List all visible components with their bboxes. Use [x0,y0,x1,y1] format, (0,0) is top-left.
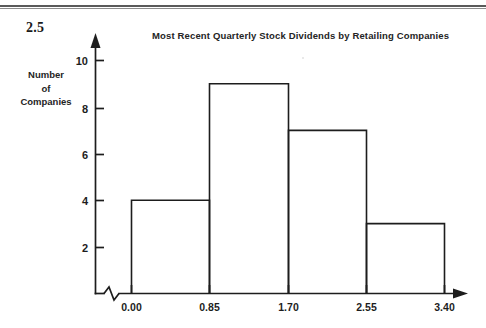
histogram-bar [367,224,445,294]
histogram-plot: 10 8 6 4 2 0.00 0.85 1.70 2.55 3.40 [0,0,486,328]
histogram-bar [289,130,367,293]
y-tick-label-10: 10 [76,55,88,67]
scanned-page: 2.5 Most Recent Quarterly Stock Dividend… [0,0,486,328]
y-tick-label-4: 4 [82,195,89,207]
x-tick-label-0: 0.00 [121,301,142,313]
x-axis-arrowhead [453,289,468,299]
y-axis-arrowhead [91,33,101,48]
y-tick-label-8: 8 [82,103,88,115]
x-tick-label-1: 0.85 [199,301,220,313]
x-tick-label-3: 2.55 [356,301,377,313]
x-tick-label-2: 1.70 [278,301,299,313]
x-tick-label-4: 3.40 [434,301,455,313]
histogram-bars [132,84,445,294]
x-axis-break-symbol [104,287,119,300]
y-tick-label-6: 6 [82,149,88,161]
y-tick-label-2: 2 [82,242,88,254]
histogram-bar [210,84,289,294]
histogram-bar [132,200,210,293]
